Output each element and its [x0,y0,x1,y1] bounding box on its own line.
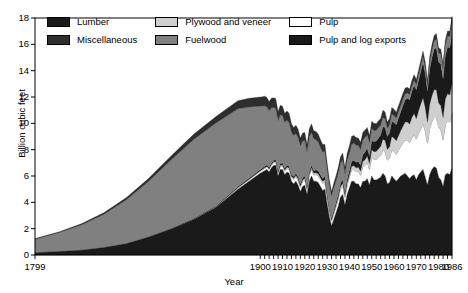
legend-label-plywood-and-veneer: Plywood and veneer [185,17,271,27]
legend-label-miscellaneous: Miscellaneous [77,35,137,45]
y-tick-label: 14 [5,65,29,76]
legend-item-miscellaneous: Miscellaneous [47,32,137,48]
legend-item-pulp: Pulp [289,14,406,30]
y-tick-label: 4 [5,196,29,207]
legend-swatch-miscellaneous [47,35,70,45]
x-tick-label: 1799 [14,261,56,272]
y-tick-label: 2 [5,223,29,234]
legend-label-lumber: Lumber [77,17,109,27]
chart-figure: Lumber Plywood and veneer Pulp Miscellan… [0,0,468,293]
legend-label-pulp-and-log-exports: Pulp and log exports [319,35,406,45]
y-tick-label: 16 [5,38,29,49]
legend-label-fuelwood: Fuelwood [185,35,226,45]
legend-swatch-lumber [47,17,70,27]
chart-legend: Lumber Plywood and veneer Pulp Miscellan… [47,14,347,48]
legend-swatch-pulp-and-log-exports [289,35,312,45]
y-tick-label: 10 [5,117,29,128]
legend-item-plywood-and-veneer: Plywood and veneer [155,14,271,30]
y-tick-label: 12 [5,91,29,102]
area-series-group [35,16,452,255]
legend-swatch-pulp [289,17,312,27]
y-tick-label: 8 [5,144,29,155]
legend-label-pulp: Pulp [319,17,338,27]
legend-item-pulp-and-log-exports: Pulp and log exports [289,32,406,48]
y-tick-label: 0 [5,249,29,260]
y-tick-label: 18 [5,12,29,23]
legend-swatch-plywood-and-veneer [155,17,178,27]
y-tick-label: 6 [5,170,29,181]
x-axis-label: Year [0,276,468,287]
legend-item-fuelwood: Fuelwood [155,32,271,48]
x-tick-label: 1986 [431,261,468,272]
legend-swatch-fuelwood [155,35,178,45]
legend-item-lumber: Lumber [47,14,137,30]
